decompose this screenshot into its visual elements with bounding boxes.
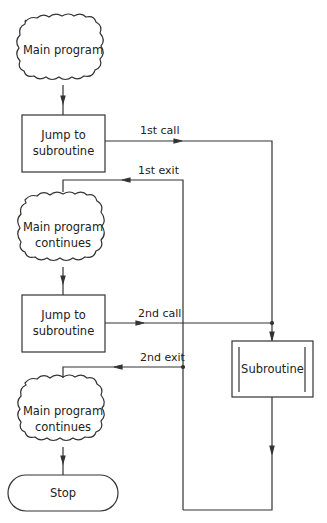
node-jump-1-line2: subroutine <box>22 143 105 159</box>
node-jump-1: Jump to subroutine <box>22 127 105 159</box>
node-main-continues-2: Main program continues <box>15 403 111 435</box>
node-main-continues-2-line1: Main program <box>15 403 111 419</box>
node-subroutine: Subroutine <box>232 361 313 377</box>
edge-label-1st-call: 1st call <box>140 124 179 137</box>
edge-label-2nd-exit: 2nd exit <box>140 351 185 364</box>
node-jump-2: Jump to subroutine <box>22 307 105 339</box>
node-main-continues-1-line2: continues <box>15 235 111 251</box>
node-jump-1-line1: Jump to <box>22 127 105 143</box>
flowchart-lines <box>0 0 327 523</box>
node-stop: Stop <box>8 485 118 501</box>
node-main-continues-2-line2: continues <box>15 419 111 435</box>
node-main-continues-1: Main program continues <box>15 219 111 251</box>
node-main-continues-1-line1: Main program <box>15 219 111 235</box>
edge-label-1st-exit: 1st exit <box>138 164 179 177</box>
node-jump-2-line1: Jump to <box>22 307 105 323</box>
node-main-program: Main program <box>15 42 111 58</box>
edge-label-2nd-call: 2nd call <box>138 307 181 320</box>
node-jump-2-line2: subroutine <box>22 323 105 339</box>
